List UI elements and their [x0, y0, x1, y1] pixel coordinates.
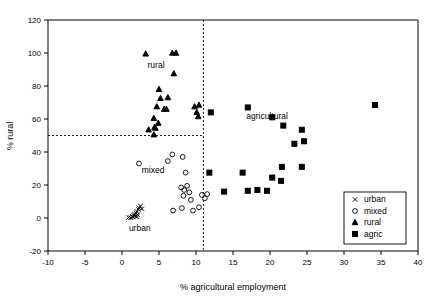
- data-point: [292, 141, 297, 146]
- data-point: [302, 139, 307, 144]
- x-tick-label: 5: [157, 258, 162, 267]
- data-point: [222, 189, 227, 194]
- data-point: [265, 188, 270, 193]
- legend-label-agric: agric: [364, 229, 383, 239]
- x-tick-label: -10: [42, 258, 54, 267]
- data-point: [279, 178, 284, 183]
- x-tick-label: 40: [414, 258, 423, 267]
- x-tick-label: 0: [120, 258, 125, 267]
- annotation-mixed: mixed: [142, 165, 165, 175]
- data-point: [281, 123, 286, 128]
- canvas-background: [0, 0, 435, 297]
- data-point: [255, 187, 260, 192]
- data-point: [245, 188, 250, 193]
- data-point: [270, 175, 275, 180]
- data-point: [373, 102, 378, 107]
- data-point: [299, 127, 304, 132]
- y-tick-label: 40: [32, 148, 41, 157]
- scatter-plot-canvas: -10-50510152025303540-20020406080100120 …: [0, 0, 435, 297]
- x-axis-label: % agricultural employment: [180, 282, 287, 292]
- data-point: [245, 105, 250, 110]
- x-tick-label: 10: [192, 258, 201, 267]
- x-tick-label: -5: [81, 258, 89, 267]
- x-tick-label: 35: [377, 258, 386, 267]
- data-point: [299, 164, 304, 169]
- x-tick-label: 20: [266, 258, 275, 267]
- data-point: [240, 170, 245, 175]
- y-tick-label: 80: [32, 82, 41, 91]
- y-tick-label: 60: [32, 115, 41, 124]
- x-tick-label: 30: [340, 258, 349, 267]
- data-point: [207, 170, 212, 175]
- legend-group[interactable]: urbanmixedruralagric: [344, 192, 406, 244]
- data-point: [208, 110, 213, 115]
- y-tick-label: 120: [28, 16, 42, 25]
- data-point: [279, 164, 284, 169]
- y-tick-label: 20: [32, 181, 41, 190]
- legend-marker-agric: [353, 232, 358, 237]
- legend-label-rural: rural: [364, 217, 381, 227]
- y-tick-label: 100: [28, 49, 42, 58]
- annotation-agricultural: agricultural: [246, 111, 288, 121]
- legend-label-mixed: mixed: [364, 206, 387, 216]
- legend-label-urban: urban: [364, 194, 386, 204]
- y-axis-label: % rural: [5, 122, 15, 151]
- annotation-urban: urban: [129, 223, 151, 233]
- figure-root: -10-50510152025303540-20020406080100120 …: [0, 0, 435, 297]
- annotation-rural: rural: [148, 60, 165, 70]
- x-tick-label: 25: [303, 258, 312, 267]
- y-tick-label: 0: [37, 214, 42, 223]
- x-tick-label: 15: [229, 258, 238, 267]
- y-tick-label: -20: [29, 247, 41, 256]
